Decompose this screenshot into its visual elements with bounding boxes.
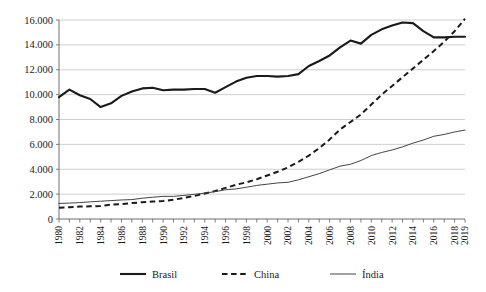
chart-canvas: 02.0004.0006.0008.00010.00012.00014.0001… [0,0,486,292]
x-axis-labels: 1980198219841986198819901992199419961998… [54,226,470,245]
x-axis-tickmarks [59,219,465,223]
x-axis-tick-label: 1994 [200,226,210,245]
y-axis-tick-label: 16.000 [24,15,53,26]
x-axis-tick-label: 2019 [460,226,470,245]
x-axis-tick-label: 2008 [346,226,356,245]
x-axis-tick-label: 2010 [367,226,377,245]
x-axis-tick-label: 2000 [263,226,273,245]
x-axis-tick-label: 1982 [75,226,85,245]
x-axis-tick-label: 1992 [179,226,189,245]
y-axis-tick-label: 12.000 [24,64,53,75]
y-axis-tick-label: 0 [48,214,53,225]
y-axis-tick-label: 8.000 [29,114,53,125]
x-axis-tick-label: 1980 [54,226,64,245]
line-chart: 02.0004.0006.0008.00010.00012.00014.0001… [0,0,486,292]
y-axis-tick-label: 14.000 [24,39,53,50]
x-axis-tick-label: 2006 [325,226,335,245]
gridlines [59,20,465,194]
legend-label-brasil: Brasil [152,269,177,280]
series-line-ndia [59,130,465,203]
x-axis-tick-label: 1996 [221,226,231,245]
y-axis-labels: 02.0004.0006.0008.00010.00012.00014.0001… [24,15,53,225]
y-axis-tick-label: 10.000 [24,89,53,100]
y-axis-tick-label: 6.000 [29,139,53,150]
series-line-china [59,19,465,208]
legend-label-china: China [254,269,279,280]
x-axis-tick-label: 2004 [304,226,314,245]
x-axis-tick-label: 1988 [138,226,148,245]
x-axis-tick-label: 1986 [117,226,127,245]
x-axis-tick-label: 1984 [96,226,106,245]
x-axis-tick-label: 2014 [408,226,418,245]
x-axis-tick-label: 1990 [159,226,169,245]
x-axis-tick-label: 1998 [242,226,252,245]
data-series-group [59,19,465,208]
x-axis-tick-label: 2016 [429,226,439,245]
x-axis-tick-label: 2012 [388,226,398,245]
legend-label-ndia: Índia [362,269,384,280]
chart-legend: BrasilChinaÍndia [120,269,384,280]
x-axis-tick-label: 2002 [283,226,293,245]
y-axis-tick-label: 4.000 [29,164,53,175]
y-axis-tick-label: 2.000 [29,189,53,200]
x-axis-tick-label: 2018 [450,226,460,245]
